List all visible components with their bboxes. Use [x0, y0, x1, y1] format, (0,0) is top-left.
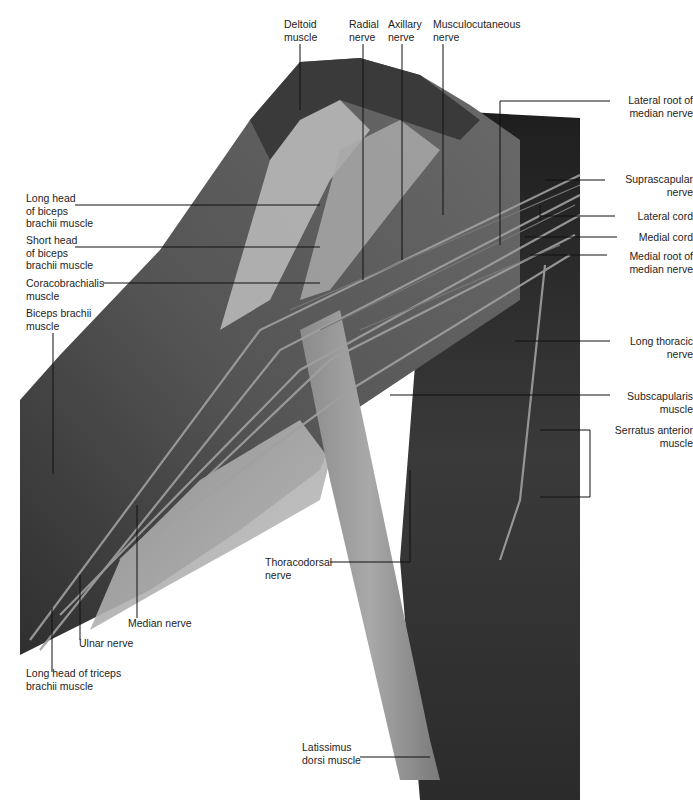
label-short-head-biceps: Short head of biceps brachii muscle — [26, 234, 93, 272]
label-lateral-cord: Lateral cord — [638, 210, 693, 223]
label-long-head-triceps: Long head of triceps brachii muscle — [26, 667, 121, 692]
label-ulnar-nerve: Ulnar nerve — [79, 637, 133, 650]
label-coracobrachialis-muscle: Coracobrachialis muscle — [26, 277, 104, 302]
label-musculocutaneous-nerve: Musculocutaneous nerve — [433, 18, 521, 43]
anatomy-figure: Deltoid muscle Radial nerve Axillary ner… — [0, 0, 693, 800]
label-long-head-biceps: Long head of biceps brachii muscle — [26, 192, 93, 230]
label-subscapularis-muscle: Subscapularis muscle — [627, 390, 693, 415]
label-long-thoracic-nerve: Long thoracic nerve — [630, 335, 693, 360]
label-biceps-brachii-muscle: Biceps brachii muscle — [26, 307, 91, 332]
label-radial-nerve: Radial nerve — [349, 18, 379, 43]
label-medial-cord: Medial cord — [639, 231, 693, 244]
label-medial-root-median-nerve: Medial root of median nerve — [629, 250, 693, 275]
label-latissimus-dorsi-muscle: Latissimus dorsi muscle — [302, 741, 361, 766]
label-thoracodorsal-nerve: Thoracodorsal nerve — [265, 556, 332, 581]
label-axillary-nerve: Axillary nerve — [388, 18, 422, 43]
label-lateral-root-median-nerve: Lateral root of median nerve — [628, 94, 693, 119]
label-deltoid-muscle: Deltoid muscle — [284, 18, 317, 43]
label-median-nerve: Median nerve — [128, 617, 192, 630]
label-suprascapular-nerve: Suprascapular nerve — [625, 173, 693, 198]
label-serratus-anterior-muscle: Serratus anterior muscle — [615, 424, 693, 449]
